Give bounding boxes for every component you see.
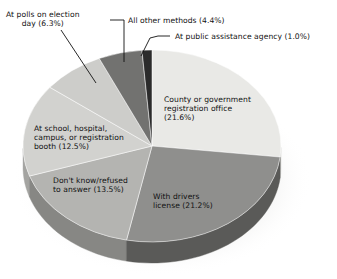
pie-chart: County or government registration office… <box>0 0 337 279</box>
pie-label-at-public-assistance-agency: At public assistance agency (1.0%) <box>175 32 310 41</box>
pie-label-with-drivers-license: With drivers license (21.2%) <box>153 192 213 210</box>
pie-label-at-polls-on-election-day: At polls on election day (6.3%) <box>6 10 80 28</box>
pie-label-county-government-registration-office: County or government registration office… <box>164 95 251 123</box>
pie-label-all-other-methods: All other methods (4.4%) <box>128 16 225 25</box>
pie-label-at-school-hospital-campus-registration-booth: At school, hospital, campus, or registra… <box>34 124 124 152</box>
pie-label-dont-know-refused-to-answer: Don't know/refused to answer (13.5%) <box>53 176 128 194</box>
